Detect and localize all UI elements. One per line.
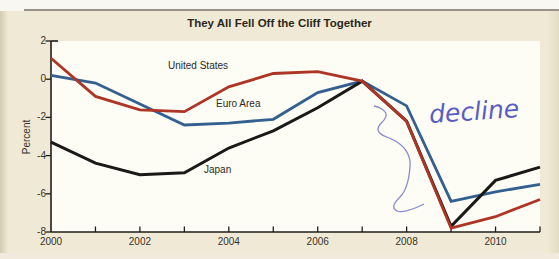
page-left-shading: [0, 11, 8, 259]
x-tick-label: 2004: [212, 236, 246, 248]
book-page: They All Fell Off the Cliff Together Per…: [0, 0, 559, 259]
series-label-japan: Japan: [204, 164, 231, 175]
x-tick-label: 2010: [479, 236, 513, 248]
y-tick-label: -4: [26, 150, 46, 162]
y-tick-label: 2: [26, 35, 46, 47]
y-tick-label: -2: [26, 111, 46, 123]
y-tick-label: 0: [26, 73, 46, 85]
x-tick-label: 2002: [123, 236, 157, 248]
x-tick-label: 2006: [301, 236, 335, 248]
x-tick-label: 2008: [390, 236, 424, 248]
page-bottom-edge: [0, 253, 559, 259]
y-tick-label: -6: [26, 188, 46, 200]
figure-panel: [0, 11, 559, 259]
page-right-shading: [547, 11, 559, 259]
series-label-euro-area: Euro Area: [216, 98, 260, 109]
x-tick-label: 2000: [34, 236, 68, 248]
chart-title: They All Fell Off the Cliff Together: [0, 17, 559, 29]
series-label-united-states: United States: [168, 60, 228, 71]
